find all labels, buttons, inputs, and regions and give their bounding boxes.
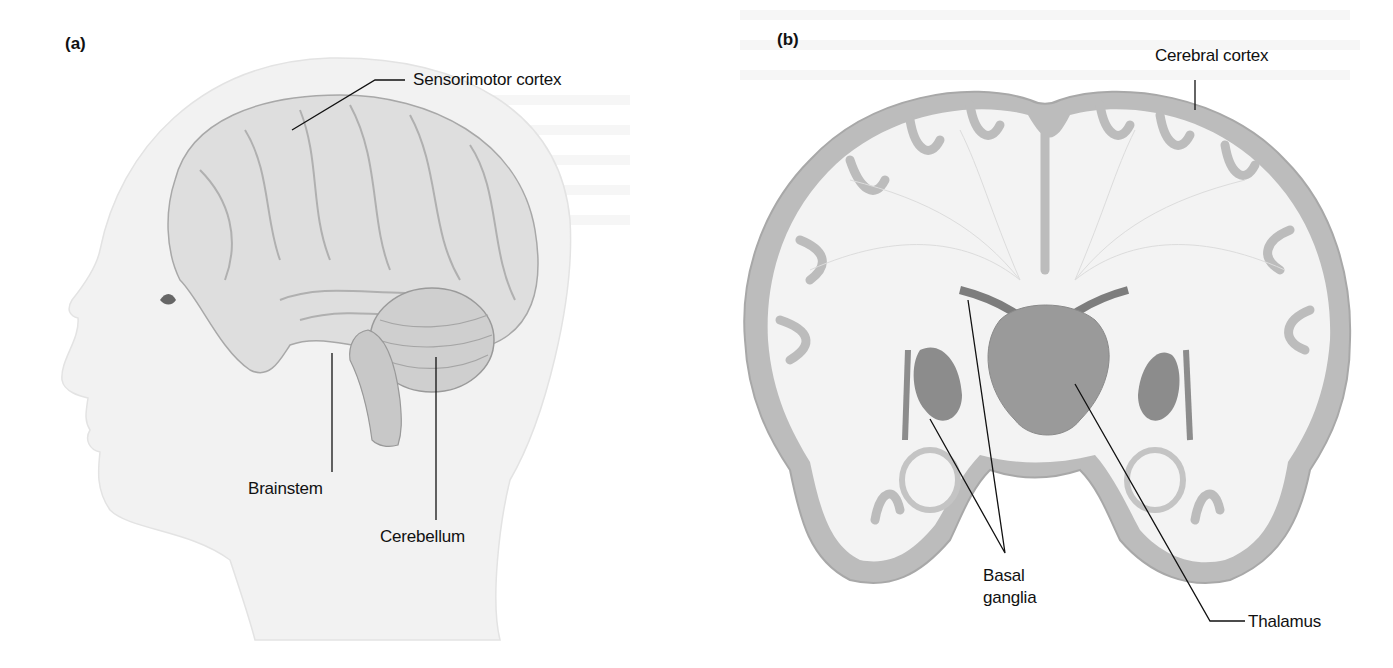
panel-label-b: (b): [777, 30, 799, 50]
head-brain-illustration: [0, 0, 700, 668]
label-thalamus: Thalamus: [1248, 612, 1321, 632]
label-cerebral-cortex: Cerebral cortex: [1155, 46, 1268, 66]
coronal-section-illustration: [700, 0, 1393, 668]
panel-label-a: (a): [65, 34, 86, 54]
label-basal-ganglia-line1: Basal: [983, 566, 1025, 586]
label-brainstem: Brainstem: [248, 479, 323, 499]
label-basal-ganglia-line2: ganglia: [983, 588, 1036, 608]
label-cerebellum: Cerebellum: [380, 527, 465, 547]
panel-b-coronal-section: (b) Cerebral cortex Basal ganglia Thalam…: [700, 0, 1393, 668]
panel-a-lateral-view: (a) Sensorimotor cortex Brainstem Cerebe…: [0, 0, 700, 668]
label-sensorimotor-cortex: Sensorimotor cortex: [413, 70, 561, 90]
